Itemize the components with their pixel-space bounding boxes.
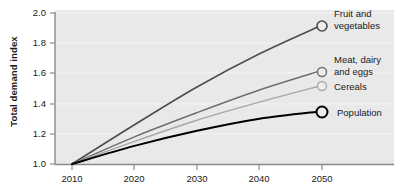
series-end-marker	[318, 82, 327, 91]
y-axis	[50, 12, 55, 164]
series-end-marker	[317, 107, 328, 118]
x-tick-label: 2040	[248, 173, 269, 184]
y-tick-labels: 2.0 1.8 1.6 1.4 1.2 1.0	[33, 7, 46, 169]
y-tick-label: 1.6	[33, 67, 46, 78]
x-tick-label: 2030	[186, 173, 207, 184]
y-tick-label: 1.2	[33, 128, 46, 139]
series-line	[72, 111, 322, 164]
x-tick-label: 2020	[123, 173, 144, 184]
chart-container: Total demand index 2.0 1.8 1.6 1.4 1.2	[0, 0, 394, 190]
y-tick-label: 1.8	[33, 37, 46, 48]
series-label-meat-line1: Meat, dairy	[334, 54, 381, 65]
series-labels: Fruit and vegetables Meat, dairy and egg…	[334, 8, 382, 118]
series-end-marker	[317, 21, 327, 31]
x-tick-label: 2050	[311, 173, 332, 184]
series-label-fruit-line2: vegetables	[334, 20, 380, 31]
series-layer	[72, 25, 322, 164]
x-tick-label: 2010	[61, 173, 82, 184]
series-label-cereals: Cereals	[334, 81, 367, 92]
y-tick-label: 2.0	[33, 7, 46, 18]
series-end-marker	[318, 68, 327, 77]
chart-svg: 2.0 1.8 1.6 1.4 1.2 1.0 2010 2020 2030 2…	[0, 0, 394, 190]
series-line	[72, 25, 322, 164]
series-label-population: Population	[337, 107, 382, 118]
x-axis	[55, 164, 394, 170]
series-markers	[317, 21, 328, 118]
series-label-fruit-line1: Fruit and	[334, 8, 372, 19]
x-tick-labels: 2010 2020 2030 2040 2050	[61, 173, 332, 184]
series-label-meat-line2: and eggs	[334, 66, 373, 77]
y-tick-label: 1.0	[33, 158, 46, 169]
y-tick-label: 1.4	[33, 98, 46, 109]
